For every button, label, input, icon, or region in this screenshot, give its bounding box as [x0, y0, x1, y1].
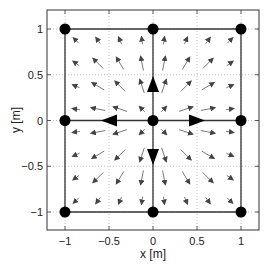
graph-node — [148, 207, 159, 218]
x-axis-label: x [m] — [140, 247, 166, 261]
y-tick-label: −0.5 — [21, 160, 43, 172]
graph-node — [148, 115, 159, 126]
y-tick-label: 0.5 — [28, 69, 43, 81]
x-tick-label: −0.5 — [98, 235, 120, 247]
graph-node — [60, 207, 71, 218]
y-tick-label: −1 — [30, 206, 43, 218]
x-tick-label: 0 — [150, 235, 156, 247]
y-axis-label: y [m] — [9, 107, 23, 133]
x-tick-label: 0.5 — [189, 235, 204, 247]
y-tick-labels: −1−0.500.51 — [21, 23, 43, 218]
x-tick-label: 1 — [238, 235, 244, 247]
graph-node — [236, 24, 247, 35]
graph-node — [148, 24, 159, 35]
x-tick-labels: −1−0.500.51 — [59, 235, 244, 247]
graph-node — [60, 24, 71, 35]
graph-node — [236, 207, 247, 218]
y-tick-label: 0 — [37, 115, 43, 127]
y-tick-label: 1 — [37, 23, 43, 35]
x-tick-label: −1 — [59, 235, 72, 247]
graph-node — [236, 115, 247, 126]
graph-node — [60, 115, 71, 126]
quiver-plot: −1−0.500.51 −1−0.500.51 x [m] y [m] — [0, 0, 269, 267]
